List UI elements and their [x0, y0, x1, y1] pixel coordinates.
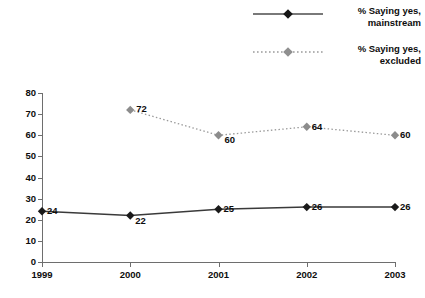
point-label-excluded-2002: 64	[312, 122, 323, 132]
data-point-excluded-2003	[391, 131, 399, 139]
data-point-excluded-2002	[303, 123, 311, 131]
data-point-mainstream-2003	[391, 203, 399, 211]
point-label-mainstream-1999: 24	[47, 206, 58, 216]
data-point-mainstream-2000	[126, 211, 134, 219]
line-chart: % Saying yes, mainstream % Saying yes, e…	[0, 0, 425, 298]
data-point-mainstream-2001	[214, 205, 222, 213]
data-point-mainstream-1999	[38, 207, 46, 215]
point-label-excluded-2001: 60	[225, 135, 236, 145]
point-label-excluded-2000: 72	[136, 104, 147, 114]
point-label-mainstream-2002: 26	[312, 202, 323, 212]
point-label-mainstream-2003: 26	[400, 202, 411, 212]
series-plot-area	[0, 0, 425, 298]
point-label-excluded-2003: 60	[400, 130, 411, 140]
data-point-excluded-2001	[214, 131, 222, 139]
data-point-excluded-2000	[126, 106, 134, 114]
data-point-mainstream-2002	[303, 203, 311, 211]
point-label-mainstream-2001: 25	[224, 204, 235, 214]
series-line-excluded	[130, 110, 395, 135]
point-label-mainstream-2000: 22	[135, 216, 146, 226]
